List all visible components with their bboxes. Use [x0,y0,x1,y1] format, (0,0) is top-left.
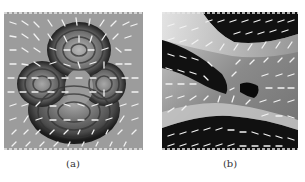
vector-field-panel-b [162,12,298,150]
panel-a-caption: (a) [66,158,80,169]
vector-field-panel-a [4,12,143,150]
vector-field-image-a [4,12,143,150]
panel-b-caption: (b) [223,158,237,169]
vector-field-image-b [162,12,298,150]
